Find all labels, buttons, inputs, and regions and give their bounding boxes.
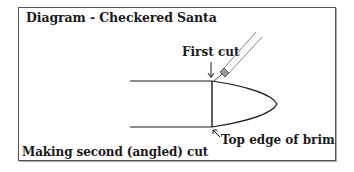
down-arrow-icon <box>208 62 214 78</box>
curved-end <box>212 81 277 127</box>
top-edge-label: Top edge of brim <box>221 133 335 147</box>
first-cut-label: First cut <box>182 45 239 59</box>
up-left-arrow-icon <box>213 130 220 137</box>
diagram-caption: Making second (angled) cut <box>22 145 208 159</box>
brim-body <box>130 81 277 127</box>
